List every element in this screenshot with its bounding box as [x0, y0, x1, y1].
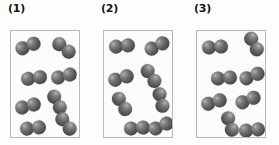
molecule [237, 65, 266, 88]
molecule-diagram: (1) [0, 0, 279, 145]
molecule [19, 120, 46, 137]
molecule [14, 96, 43, 116]
panel-3-container [196, 30, 266, 138]
molecule [142, 34, 172, 58]
molecule [124, 120, 151, 136]
panel-2-label: (2) [101, 2, 118, 15]
atom-sphere [32, 69, 48, 85]
panel-1-container [10, 30, 80, 138]
molecule [200, 92, 229, 113]
molecule [233, 89, 262, 112]
atom-sphere [120, 38, 135, 53]
atom-sphere [214, 39, 229, 54]
panel-2-container [103, 30, 173, 138]
molecule [109, 89, 135, 118]
panel-3-label: (3) [194, 2, 211, 15]
atom-sphere [31, 120, 46, 135]
atom-sphere [223, 70, 238, 85]
molecule [50, 66, 79, 86]
panel-1: (1) [0, 0, 93, 145]
molecule [146, 114, 173, 137]
molecule [211, 70, 238, 86]
panel-3: (3) [186, 0, 279, 145]
molecule [202, 39, 229, 55]
molecule [20, 69, 48, 86]
panel-1-label: (1) [8, 2, 25, 15]
molecule [242, 30, 266, 59]
molecule [108, 38, 135, 55]
molecule [151, 86, 171, 115]
molecule [13, 35, 42, 58]
molecule [238, 122, 265, 138]
molecule [49, 34, 78, 61]
molecule [52, 109, 79, 138]
panel-2: (2) [93, 0, 186, 145]
atom-sphere [154, 97, 171, 114]
molecule [107, 68, 136, 89]
atom-sphere [250, 122, 265, 137]
